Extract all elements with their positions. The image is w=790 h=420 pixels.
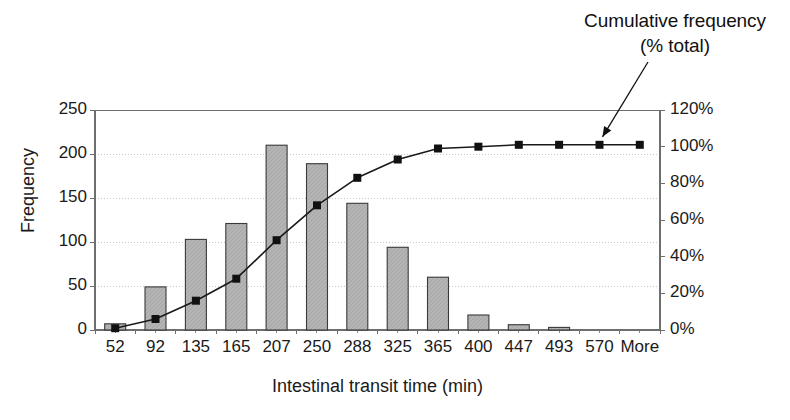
chart-figure: Cumulative frequency (% total) Frequency… bbox=[0, 0, 790, 420]
line-marker bbox=[636, 141, 644, 149]
y-tick-right: 120% bbox=[670, 99, 730, 119]
line-marker bbox=[313, 201, 321, 209]
x-tick: 52 bbox=[92, 337, 138, 357]
x-tick: 135 bbox=[173, 337, 219, 357]
histogram-bar bbox=[508, 325, 529, 330]
line-marker bbox=[474, 143, 482, 151]
histogram-bar bbox=[347, 203, 368, 330]
x-tick: 493 bbox=[536, 337, 582, 357]
line-marker bbox=[515, 141, 523, 149]
x-tick: 250 bbox=[294, 337, 340, 357]
line-marker bbox=[555, 141, 563, 149]
x-tick: 207 bbox=[254, 337, 300, 357]
x-axis-label-transit-time: Intestinal transit time (min) bbox=[95, 376, 660, 397]
y-tick-left: 150 bbox=[41, 187, 87, 207]
y-tick-left: 50 bbox=[41, 275, 87, 295]
annotation-line-1: Cumulative frequency bbox=[560, 8, 790, 33]
y-tick-right: 100% bbox=[670, 136, 730, 156]
x-tick: 570 bbox=[576, 337, 622, 357]
y-tick-right: 60% bbox=[670, 209, 730, 229]
y-tick-left: 100 bbox=[41, 231, 87, 251]
line-marker bbox=[232, 275, 240, 283]
histogram-bar bbox=[428, 277, 449, 330]
line-marker bbox=[596, 141, 604, 149]
line-marker bbox=[111, 324, 119, 332]
histogram-bar bbox=[549, 327, 570, 330]
y-tick-left: 250 bbox=[41, 99, 87, 119]
x-tick: 325 bbox=[375, 337, 421, 357]
y-tick-right: 80% bbox=[670, 172, 730, 192]
x-tick: More bbox=[617, 337, 663, 357]
line-marker bbox=[434, 145, 442, 153]
line-marker bbox=[353, 174, 361, 182]
figure-caption-strip bbox=[8, 404, 608, 416]
y-tick-left: 0 bbox=[41, 319, 87, 339]
line-marker bbox=[394, 156, 402, 164]
histogram-bar bbox=[387, 247, 408, 330]
line-marker bbox=[273, 236, 281, 244]
y-axis-label-frequency: Frequency bbox=[18, 101, 39, 281]
x-tick: 400 bbox=[455, 337, 501, 357]
y-tick-right: 20% bbox=[670, 282, 730, 302]
x-tick: 92 bbox=[133, 337, 179, 357]
histogram-bar bbox=[468, 315, 489, 330]
y-tick-left: 200 bbox=[41, 143, 87, 163]
line-marker bbox=[192, 297, 200, 305]
y-tick-right: 40% bbox=[670, 246, 730, 266]
histogram-bar bbox=[145, 287, 166, 330]
x-tick: 165 bbox=[213, 337, 259, 357]
y-tick-right: 0% bbox=[670, 319, 730, 339]
annotation-line-2: (% total) bbox=[560, 33, 790, 58]
histogram-bar bbox=[307, 164, 328, 330]
line-marker bbox=[152, 315, 160, 323]
histogram-bar bbox=[185, 239, 206, 330]
x-tick: 365 bbox=[415, 337, 461, 357]
x-tick: 447 bbox=[496, 337, 542, 357]
x-tick: 288 bbox=[334, 337, 380, 357]
